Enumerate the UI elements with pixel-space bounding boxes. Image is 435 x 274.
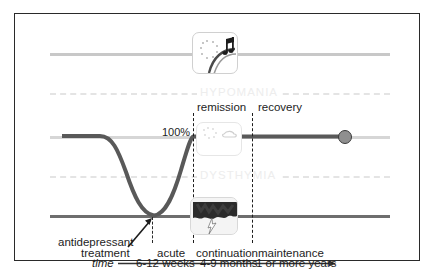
- antidepressant-treatment-arrowhead: [145, 218, 152, 225]
- remission-label: remission: [197, 101, 246, 113]
- depression-mood-thumbnail: [190, 197, 238, 235]
- sun-dots-icon: [200, 40, 218, 59]
- faint-cloud-icon: [223, 131, 237, 137]
- treatment-phases-figure: HYPOMANIA DYSTHYMIA: [0, 0, 435, 274]
- hundred-percent-label: 100%: [162, 126, 190, 138]
- remission-mood-thumbnail: [196, 122, 242, 156]
- continuation-phase-duration: 4-9 months: [200, 257, 258, 269]
- recovery-label: recovery: [258, 101, 302, 113]
- maintenance-phase-duration: 1 or more years: [256, 257, 337, 269]
- recovery-endpoint-dot: [338, 130, 352, 144]
- acute-phase-duration: 6-12 weeks: [136, 257, 195, 269]
- music-note-icon: [222, 37, 234, 55]
- recovery-divider: [252, 113, 253, 243]
- time-axis-label: time: [92, 257, 114, 269]
- faint-sun-icon: [203, 127, 217, 139]
- acute-phase-tick: [152, 217, 153, 243]
- euthymic-mood-thumbnail: [192, 32, 238, 74]
